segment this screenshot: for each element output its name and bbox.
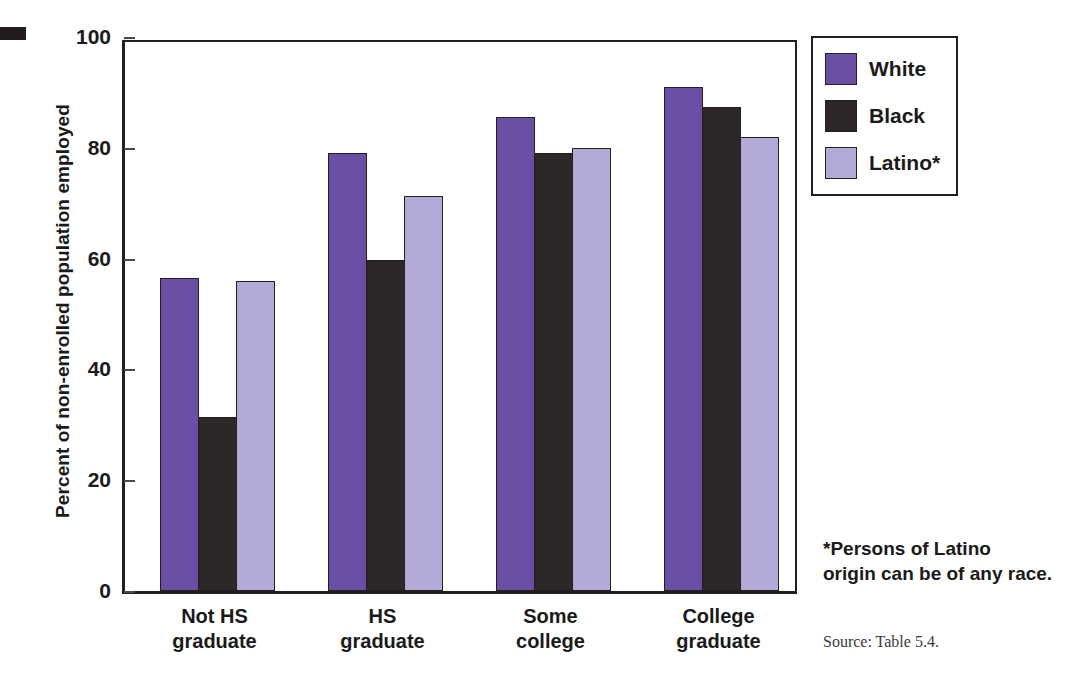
chart-legend: WhiteBlackLatino* — [811, 36, 958, 196]
category-label-line-2: graduate — [288, 629, 478, 654]
bar — [328, 153, 367, 591]
y-tick-label: 80 — [88, 136, 111, 160]
y-tick-label: 40 — [88, 357, 111, 381]
footnote-text: *Persons of Latino origin can be of any … — [823, 536, 1083, 587]
bar — [740, 137, 779, 591]
bar — [572, 148, 611, 591]
bar — [160, 278, 199, 591]
bar-group — [496, 42, 611, 591]
bar — [702, 107, 741, 591]
category-label-line-2: graduate — [120, 629, 310, 654]
bar — [534, 153, 573, 591]
y-tick-line — [124, 591, 135, 593]
category-label-line-1: Not HS — [120, 604, 310, 629]
legend-item: Black — [825, 98, 946, 134]
category-label-line-1: College — [624, 604, 814, 629]
x-axis-category-label: Somecollege — [456, 604, 646, 655]
bar-chart-figure: Percent of non-enrolled population emplo… — [0, 0, 1089, 694]
category-label-line-2: college — [456, 629, 646, 654]
bar-group — [664, 42, 779, 591]
bar-group — [160, 42, 275, 591]
y-tick-label: 100 — [76, 25, 111, 49]
y-tick-label: 60 — [88, 247, 111, 271]
bar — [404, 196, 443, 591]
y-tick-line — [124, 37, 135, 39]
y-tick-line — [124, 369, 135, 371]
category-label-line-2: graduate — [624, 629, 814, 654]
y-axis-title: Percent of non-enrolled population emplo… — [52, 51, 74, 571]
legend-swatch — [825, 100, 857, 132]
y-tick-line — [124, 480, 135, 482]
bar-group — [328, 42, 443, 591]
plot-area: 020406080100 — [122, 40, 797, 594]
footnote-line-2: origin can be of any race. — [823, 561, 1083, 586]
legend-label: White — [869, 57, 926, 81]
category-label-line-1: HS — [288, 604, 478, 629]
bar — [198, 417, 237, 592]
legend-label: Latino* — [869, 151, 940, 175]
x-axis-category-label: HSgraduate — [288, 604, 478, 655]
category-label-line-1: Some — [456, 604, 646, 629]
legend-item: Latino* — [825, 145, 946, 181]
legend-label: Black — [869, 104, 925, 128]
y-tick-label: 20 — [88, 468, 111, 492]
source-note: Source: Table 5.4. — [823, 633, 1083, 651]
bar — [496, 117, 535, 591]
y-tick-label: 0 — [99, 579, 111, 603]
legend-swatch — [825, 53, 857, 85]
legend-item: White — [825, 51, 946, 87]
x-axis-category-label: Not HSgraduate — [120, 604, 310, 655]
bar — [236, 281, 275, 591]
bar — [664, 87, 703, 591]
legend-swatch — [825, 147, 857, 179]
y-tick-line — [124, 148, 135, 150]
y-tick-line — [124, 259, 135, 261]
x-axis-category-label: Collegegraduate — [624, 604, 814, 655]
bar — [366, 260, 405, 591]
footnote-line-1: *Persons of Latino — [823, 536, 1083, 561]
